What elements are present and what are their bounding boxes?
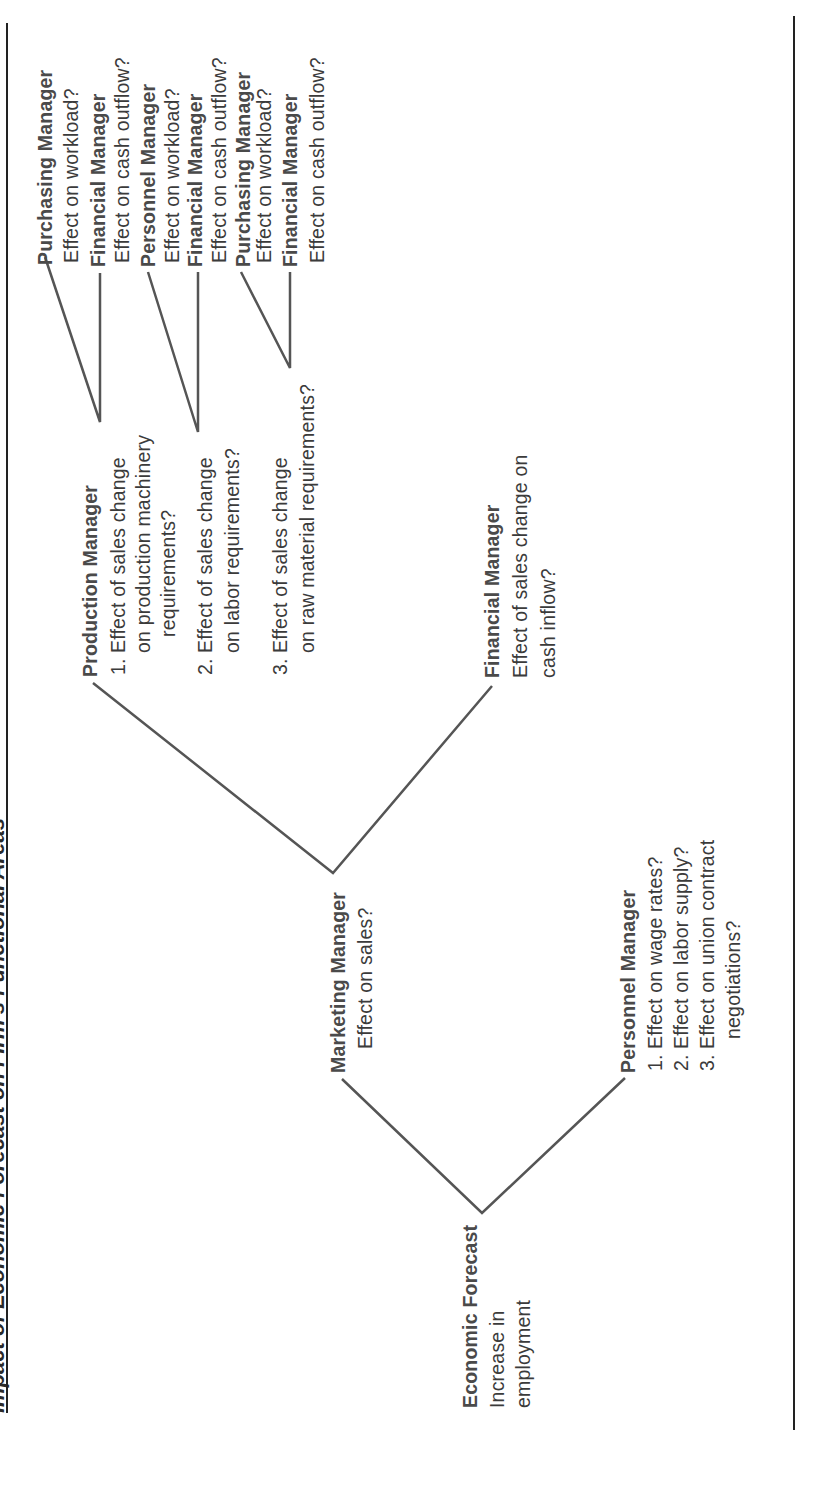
leaf-6-label: Financial Manager (279, 93, 301, 267)
marketing-branch-lines (93, 683, 492, 873)
leaf-1-label: Purchasing Manager (34, 70, 56, 265)
production-item-2-line-1: Effect of sales change (194, 457, 216, 653)
production-item-3-line-2: on raw material requirements? (296, 384, 318, 653)
financial-label: Financial Manager (481, 504, 503, 678)
marketing-label: Marketing Manager (327, 892, 349, 1073)
leaf-5-label: Purchasing Manager (232, 72, 254, 267)
production-item3-branch (241, 272, 290, 368)
leaf-4-desc: Effect on cash outflow? (208, 57, 230, 263)
production-item-3-num: 3. (269, 658, 291, 675)
production-item1-branch (45, 257, 100, 422)
leaf-5-desc: Effect on workload? (253, 88, 275, 263)
leaf-2-desc: Effect on cash outflow? (111, 57, 133, 263)
production-item-2-num: 2. (194, 658, 216, 675)
production-item-1-line-3: requirements? (157, 510, 179, 637)
marketing-desc: Effect on sales? (354, 907, 376, 1049)
personnel-item-3-num: 3. (696, 1054, 718, 1071)
leaf-2-label: Financial Manager (87, 93, 109, 267)
production-item-1-num: 1. (107, 658, 129, 675)
root-branch-lines (342, 1078, 625, 1213)
leaf-4-label: Financial Manager (184, 93, 206, 267)
production-item-3-line-1: Effect of sales change (269, 457, 291, 653)
personnel-label: Personnel Manager (617, 890, 639, 1073)
diagram-stage: Impact of Economic Forecast on Firm's Fu… (0, 0, 828, 1485)
root-desc-1: Increase in (486, 1310, 508, 1408)
production-item-2-line-2: on labor requirements? (221, 448, 243, 653)
personnel-item-2: Effect on labor supply? (670, 846, 692, 1049)
leaf-6-desc: Effect on cash outflow? (306, 57, 328, 263)
root-label: Economic Forecast (459, 1225, 481, 1408)
leaf-3-label: Personnel Manager (137, 84, 159, 267)
personnel-item-1: Effect on wage rates? (644, 857, 666, 1049)
financial-desc-1: Effect of sales change on (509, 454, 531, 678)
personnel-item-1-num: 1. (644, 1054, 666, 1071)
production-item2-branch (148, 272, 198, 432)
production-item-1-line-1: Effect of sales change (107, 457, 129, 653)
production-item-1-line-2: on production machinery (132, 435, 154, 653)
root-desc-2: employment (512, 1300, 534, 1408)
personnel-item-3: Effect on union contract (696, 840, 718, 1049)
financial-desc-2: cash inflow? (537, 568, 559, 678)
personnel-item-3-cont: negotiations? (722, 920, 744, 1039)
leaf-3-desc: Effect on workload? (161, 88, 183, 263)
production-label: Production Manager (79, 485, 101, 677)
leaf-1-desc: Effect on workload? (60, 88, 82, 263)
personnel-item-2-num: 2. (670, 1054, 692, 1071)
